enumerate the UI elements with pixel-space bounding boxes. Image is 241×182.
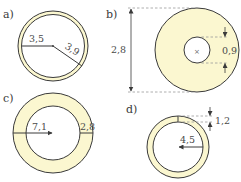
figure-a-inner-radius-value: 3,5 [29,33,44,44]
figure-d-inner-value: 4,5 [180,134,195,145]
figure-c-label: c) [3,92,13,105]
figure-b: b) × 2,8 0,9 [106,8,239,92]
figure-a: a) 3,5 3,9 [3,8,88,81]
figure-a-center-dot [52,45,54,47]
figure-b-label: b) [106,8,117,21]
figure-b-center-mark: × [194,48,200,56]
figure-c-inner-value: 7,1 [32,121,47,132]
figure-d-width-value: 1,2 [215,115,230,126]
figure-b-outer-diameter-value: 2,8 [111,44,126,55]
figure-c: c) 7,1 2,8 [3,92,95,173]
figure-c-width-value: 2,8 [80,121,95,132]
figure-b-inner-diameter-value: 0,9 [222,45,237,56]
figure-a-label: a) [3,8,14,21]
figure-d: d) 1,2 4,5 [126,103,230,178]
annulus-figures-diagram: a) 3,5 3,9 b) × 2,8 0,9 c) 7,1 2,8 [0,0,241,182]
figure-d-label: d) [126,103,137,116]
